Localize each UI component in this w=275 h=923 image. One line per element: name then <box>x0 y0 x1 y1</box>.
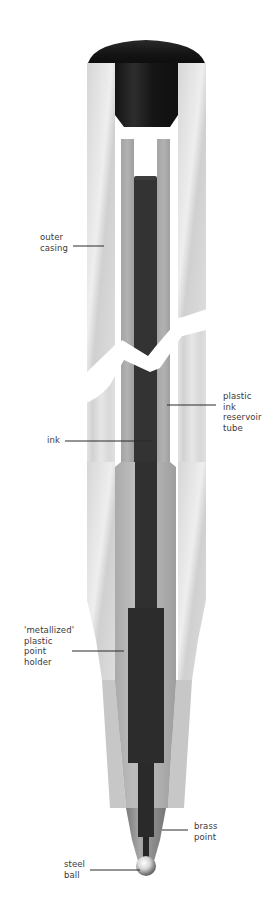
label-steel-ball: steel ball <box>64 859 85 880</box>
label-outer-casing: outer casing <box>40 232 68 253</box>
cap-plug <box>115 63 178 127</box>
ink-plug <box>128 608 164 763</box>
pen-cross-section <box>0 0 275 923</box>
cap-dome <box>88 40 205 63</box>
label-brass-point: brass point <box>194 821 217 842</box>
label-metallized-plastic-point-holder: 'metallized' plastic point holder <box>24 625 74 667</box>
steel-ball <box>136 856 156 876</box>
label-plastic-ink-reservoir-tube: plastic ink reservoir tube <box>223 391 262 433</box>
label-ink: ink <box>47 435 60 446</box>
